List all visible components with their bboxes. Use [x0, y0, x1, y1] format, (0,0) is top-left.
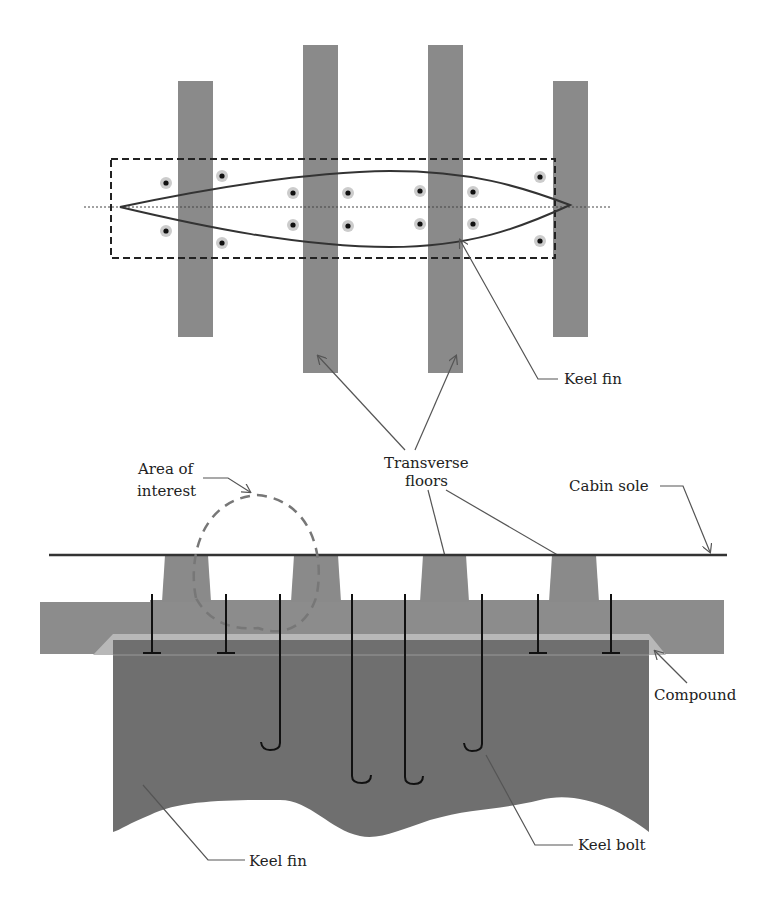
- keel-fin-bottom-label: Keel fin: [249, 852, 307, 870]
- compound-leader: [655, 651, 687, 683]
- section-floor-4: [549, 555, 599, 602]
- keel-fin-body: [113, 636, 649, 837]
- transverse-floors-label-line2: floors: [405, 472, 448, 490]
- transverse-floors-label-line1: Transverse: [384, 454, 469, 472]
- keel-bolts-plan: [160, 170, 546, 249]
- top-view: Keel fin: [84, 45, 622, 388]
- section-view: Area of interest Cabin sole Compound Kee…: [40, 460, 737, 870]
- keel-fin-top-leader: [460, 240, 558, 379]
- compound-label: Compound: [654, 686, 737, 704]
- floor-bar-3: [428, 45, 463, 373]
- section-floor-1: [162, 555, 211, 602]
- keel-fin-top-label: Keel fin: [564, 370, 622, 388]
- floor-bar-4: [553, 81, 588, 337]
- section-floor-2: [291, 555, 341, 602]
- area-of-interest-leader: [203, 478, 250, 492]
- keel-attachment-diagram: Keel fin Transverse floors: [0, 0, 783, 912]
- floor-bar-2: [303, 45, 338, 373]
- section-floor-3: [420, 555, 469, 602]
- cabin-sole-leader: [660, 486, 710, 552]
- keel-bolt-label: Keel bolt: [578, 836, 646, 854]
- area-of-interest-label-line1: Area of: [137, 460, 195, 478]
- floor-bar-1: [178, 81, 213, 337]
- area-of-interest-label-line2: interest: [137, 482, 196, 500]
- cabin-sole-label: Cabin sole: [569, 477, 649, 495]
- transverse-floors-callout: Transverse floors: [318, 356, 580, 568]
